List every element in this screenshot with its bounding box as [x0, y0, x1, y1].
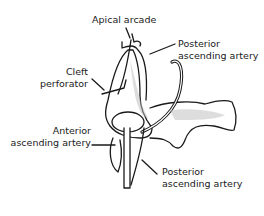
label-posterior-ascending-artery-bottom-2: ascending artery: [162, 178, 242, 190]
label-anterior-ascending-artery-1: Anterior: [53, 125, 91, 137]
label-cleft-perforator-1: Cleft: [66, 66, 88, 78]
label-anterior-ascending-artery-2: ascending artery: [11, 137, 91, 149]
leader-cleft-perforator: [92, 79, 104, 90]
leader-apical-arcade: [126, 28, 130, 38]
leader-posterior-bottom: [142, 160, 157, 174]
label-apical-arcade: Apical arcade: [92, 14, 156, 26]
label-posterior-ascending-artery-top-1: Posterior: [178, 38, 220, 50]
descending-vessel: [124, 128, 130, 188]
label-cleft-perforator-2: perforator: [40, 78, 88, 90]
label-posterior-ascending-artery-top-2: ascending artery: [178, 50, 258, 62]
label-posterior-ascending-artery-bottom-1: Posterior: [162, 166, 204, 178]
leader-posterior-top: [150, 44, 175, 54]
bone-wing: [150, 101, 236, 148]
